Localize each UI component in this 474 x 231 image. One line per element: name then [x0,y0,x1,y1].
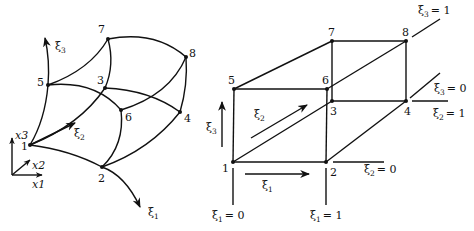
node-3-dot [330,99,334,103]
node-3-label: 3 [97,74,104,87]
xi1-eq-0-label: ξ1= 0 [212,209,245,224]
node-5-dot [46,83,50,87]
edge-3-7 [105,39,111,88]
xi1-label: ξ1 [148,206,159,221]
xi3-eq-1-label: ξ3= 1 [418,4,451,19]
reference-cube-panel: ξ3 ξ2 ξ1 ξ1= 0 ξ1= 1 ξ2= 0 ξ2= 1 ξ3= 0 ξ… [206,4,467,224]
node-2-dot [100,165,104,169]
node-4-label: 4 [184,112,191,125]
node-6-dot [325,87,329,91]
edge-2-4 [102,112,180,167]
edge-7-8 [108,37,186,57]
edge-1-3 [30,88,105,145]
edge-2-6 [102,110,122,167]
node-8-label: 8 [402,26,409,39]
edge-1-3 [233,101,332,162]
cube-edges [233,41,406,162]
node-7-label: 7 [98,23,105,36]
xi1-eq-1-label: ξ1= 1 [310,209,343,224]
node-2-dot [324,160,328,164]
global-axes: x3 x2 x1 [12,129,45,191]
xi3-label: ξ3 [206,121,217,136]
edge-3-4 [105,88,180,112]
node-4-label: 4 [404,105,411,118]
node-7-dot [330,39,334,43]
xi2-direction-arrow-icon [30,123,75,145]
x2-axis-arrow-icon [12,160,30,175]
xi1-label: ξ1 [262,179,273,194]
xi1-direction-arrow-icon [102,167,140,207]
node-5-label: 5 [228,74,235,87]
node-6-dot [119,108,123,112]
element-mapping-diagram: x3 x2 x1 ξ3 ξ2 ξ1 [0,0,474,231]
node-7-label: 7 [328,26,335,39]
xi3-eq-0-label: ξ3= 0 [434,82,467,97]
curved-element-panel: x3 x2 x1 ξ3 ξ2 ξ1 [12,23,196,221]
node-8-dot [404,39,408,43]
node-2-label: 2 [330,166,337,179]
node-4-dot [404,99,408,103]
node-8-dot [184,55,188,59]
edge-6-8 [327,41,406,89]
edge-4-8 [180,57,186,112]
edge-2-6 [326,89,327,162]
node-5-dot [232,87,236,91]
xi2-eq-1-label: ξ2= 1 [433,107,466,122]
node-7-dot [106,37,110,41]
node-3-label: 3 [330,105,337,118]
node-6-label: 6 [125,111,132,124]
xi3-direction-arrow-icon [45,38,49,85]
node-2-label: 2 [98,172,105,185]
edge-1-5 [30,85,48,145]
plane-indicator-lines [233,19,448,205]
node-8-label: 8 [189,47,196,60]
xi2-label: ξ2 [74,127,85,142]
node-4-dot [178,110,182,114]
xi3-label: ξ3 [55,40,66,55]
xi2-label: ξ2 [254,108,265,123]
node-1-label: 1 [222,162,229,175]
x1-axis-label: x1 [32,178,45,191]
edge-1-5 [233,89,234,162]
x2-axis-label: x2 [32,159,45,172]
node-6-label: 6 [322,74,329,87]
node-1-dot [231,160,235,164]
curved-edges [30,37,186,167]
edge-2-4 [326,101,406,162]
node-1-dot [28,143,32,147]
edge-5-7 [234,41,332,89]
xi2-eq-0-label: ξ2= 0 [364,163,397,178]
node-5-label: 5 [37,76,44,89]
node-1-label: 1 [21,140,28,153]
edge-6-8 [121,57,186,110]
xi3-eq-1-line [412,19,440,37]
